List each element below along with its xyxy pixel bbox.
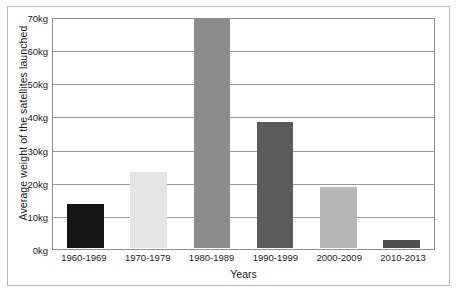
x-axis-tick-label: 2000-2009 [307,252,371,263]
y-axis-tick-label: 10kg [4,211,48,222]
x-axis-tick-label: 1990-1999 [243,252,307,263]
bar-chart-figure: Average weight of the satellites launche… [0,0,457,293]
y-axis-tick-label: 30kg [4,145,48,156]
x-axis-tick-label: 1960-1969 [52,252,116,263]
bar-slot [117,20,180,248]
bar[interactable] [67,204,104,248]
x-axis-tick-label: 1980-1989 [180,252,244,263]
y-axis-tick-label: 20kg [4,178,48,189]
plot-frame [52,18,435,250]
y-axis-tick-label: 50kg [4,79,48,90]
x-axis-title: Years [52,268,435,280]
bar-slot [54,20,117,248]
bar-slot [370,20,433,248]
y-axis-tick-label: 0kg [4,245,48,256]
y-axis-tick-label: 70kg [4,13,48,24]
bar[interactable] [320,187,357,248]
bar[interactable] [194,18,231,248]
y-axis-tick-label: 40kg [4,112,48,123]
bar-slot [244,20,307,248]
plot-area [52,18,435,250]
x-axis-tick-labels: 1960-19691970-19791980-19891990-19992000… [52,252,435,263]
y-axis-tick-labels: 0kg10kg20kg30kg40kg50kg60kg70kg [0,18,48,250]
bar-slot [180,20,243,248]
y-axis-tick-label: 60kg [4,46,48,57]
bar-slot [307,20,370,248]
bar[interactable] [257,122,294,249]
bar-series [54,20,433,248]
bar[interactable] [130,172,167,248]
bar[interactable] [383,240,420,248]
x-axis-tick-label: 2010-2013 [371,252,435,263]
x-axis-tick-label: 1970-1979 [116,252,180,263]
